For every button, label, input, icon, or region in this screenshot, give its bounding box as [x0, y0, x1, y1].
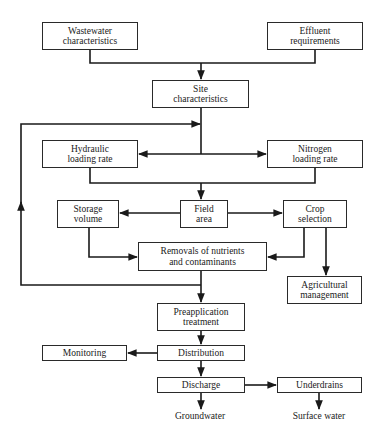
node-label: Nitrogen: [292, 144, 337, 155]
node-storage-volume: Storagevolume: [57, 200, 119, 228]
node-distribution: Distribution: [157, 345, 245, 361]
node-monitoring: Monitoring: [42, 345, 127, 361]
node-label: management: [300, 290, 349, 301]
output-surface-water: Surface water: [293, 411, 345, 421]
node-discharge: Discharge: [157, 377, 245, 393]
node-label: Storage: [73, 204, 102, 215]
node-field-area: Fieldarea: [180, 200, 228, 228]
node-nitrogen-loading-rate: Nitrogenloading rate: [267, 140, 363, 168]
node-label: Wastewater: [63, 26, 117, 37]
node-label: Underdrains: [296, 380, 343, 391]
node-label: Agricultural: [300, 280, 349, 291]
node-underdrains: Underdrains: [277, 377, 362, 393]
node-label: Monitoring: [63, 348, 106, 359]
node-label: Discharge: [182, 380, 220, 391]
node-label: characteristics: [173, 94, 227, 105]
node-label: Site: [173, 84, 227, 95]
node-label: Distribution: [178, 348, 224, 359]
flowchart-diagram: Wastewatercharacteristics Effluentrequir…: [0, 0, 384, 437]
node-label: Effluent: [290, 26, 340, 37]
node-effluent-requirements: Effluentrequirements: [267, 22, 363, 50]
output-groundwater: Groundwater: [175, 411, 225, 421]
node-label: requirements: [290, 36, 340, 47]
node-agricultural-management: Agriculturalmanagement: [287, 276, 362, 304]
node-label: Preapplication: [174, 307, 229, 318]
node-label: volume: [73, 214, 102, 225]
node-label: Crop: [298, 204, 332, 215]
node-label: and contaminants: [161, 257, 245, 268]
node-site-characteristics: Sitecharacteristics: [152, 80, 249, 108]
node-preapplication-treatment: Preapplicationtreatment: [157, 303, 245, 331]
node-wastewater-characteristics: Wastewatercharacteristics: [42, 22, 138, 50]
node-label: Hydraulic: [67, 144, 112, 155]
node-label: treatment: [174, 317, 229, 328]
node-label: Removals of nutrients: [161, 246, 245, 257]
node-label: area: [194, 214, 214, 225]
node-label: loading rate: [67, 154, 112, 165]
node-label: characteristics: [63, 36, 117, 47]
node-removals: Removals of nutrientsand contaminants: [138, 242, 267, 271]
node-crop-selection: Cropselection: [283, 200, 347, 228]
node-label: loading rate: [292, 154, 337, 165]
node-label: selection: [298, 214, 332, 225]
node-label: Field: [194, 204, 214, 215]
node-hydraulic-loading-rate: Hydraulicloading rate: [42, 140, 138, 168]
